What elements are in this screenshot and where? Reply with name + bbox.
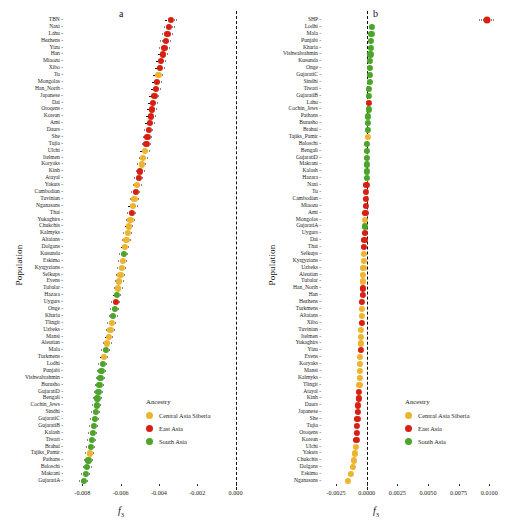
y-tick-label: Kalmyks ‐: [40, 231, 63, 237]
data-point: [89, 437, 95, 443]
data-point: [94, 395, 100, 401]
legend-color-swatch: [405, 438, 412, 445]
data-point: [143, 141, 149, 147]
y-tick-label: Tuvinian ‐: [298, 327, 321, 333]
y-tick-label: Tiwari ‐: [45, 437, 63, 443]
data-point: [142, 148, 148, 154]
y-tick-label: Hezhens ‐: [299, 299, 321, 305]
panel-a-plot-area: TBN ‐Naxi ‐Lahu ‐Hezhens ‐Yizu ‐Han ‐Mia…: [0, 0, 254, 531]
data-point: [364, 175, 370, 181]
data-point: [367, 51, 373, 57]
y-tick-label: Tuvinian ‐: [40, 196, 63, 202]
y-tick-label: Kusunda ‐: [40, 251, 63, 257]
y-tick-label: Turkmens ‐: [296, 306, 321, 312]
y-tick-label: Koryaks ‐: [41, 162, 63, 168]
y-tick-label: Eskimo ‐: [301, 471, 321, 477]
data-point: [96, 382, 102, 388]
data-point: [140, 155, 146, 161]
data-point: [102, 347, 108, 353]
legend-label: East Asia: [159, 425, 183, 432]
y-tick-label: Onge ‐: [48, 306, 63, 312]
data-point: [114, 292, 120, 298]
legend-label: East Asia: [418, 425, 442, 432]
y-tick-label: Mala ‐: [307, 31, 321, 37]
y-tick-label: GujaratiC ‐: [38, 416, 63, 422]
x-tick-mark: [489, 484, 490, 486]
data-point: [126, 223, 132, 229]
y-tick-label: Daurs ‐: [305, 403, 321, 409]
y-tick-label: Pathans ‐: [301, 114, 321, 120]
y-tick-label: Yakuts ‐: [303, 451, 321, 457]
y-tick-label: Aleutian ‐: [41, 341, 63, 347]
y-tick-label: She ‐: [310, 416, 321, 422]
y-tick-label: Kinh ‐: [49, 169, 63, 175]
y-tick-label: Mansi ‐: [46, 334, 63, 340]
data-point: [95, 388, 101, 394]
data-point: [155, 72, 161, 78]
y-tick-label: Han ‐: [51, 52, 63, 58]
data-point: [358, 327, 364, 333]
y-tick-label: Tu ‐: [54, 72, 63, 78]
figure-root: a Population TBN ‐Naxi ‐Lahu ‐Hezhens ‐Y…: [0, 0, 507, 531]
data-point: [93, 402, 99, 408]
data-point: [359, 313, 365, 319]
y-tick-label: Lahu ‐: [307, 100, 321, 106]
data-point: [367, 65, 373, 71]
panel-b-x-axis-label: f3: [373, 505, 379, 518]
data-point: [131, 196, 137, 202]
data-point: [364, 155, 370, 161]
data-point: [82, 471, 88, 477]
y-tick-label: Yukaghirs ‐: [38, 217, 63, 223]
data-point: [357, 361, 363, 367]
data-point: [359, 299, 365, 305]
y-tick-label: Ulchi ‐: [48, 148, 63, 154]
x-tick-label: -0.008: [74, 489, 90, 496]
y-tick-label: Altaians ‐: [42, 237, 63, 243]
data-point: [115, 285, 121, 291]
data-point: [154, 79, 160, 85]
legend-color-swatch: [405, 425, 412, 432]
y-tick-label: Ami ‐: [308, 210, 321, 216]
legend-item[interactable]: East Asia: [405, 422, 469, 435]
y-tick-label: Uzbeks ‐: [301, 265, 321, 271]
y-tick-label: Nganasans ‐: [294, 478, 321, 484]
y-tick-label: Naxi ‐: [49, 24, 63, 30]
panel-a: a Population TBN ‐Naxi ‐Lahu ‐Hezhens ‐Y…: [0, 0, 254, 531]
data-point: [364, 141, 370, 147]
y-tick-label: Kusunda ‐: [298, 58, 321, 64]
y-tick-label: Sindhi ‐: [46, 409, 63, 415]
data-point: [358, 320, 364, 326]
data-point: [136, 175, 142, 181]
data-point: [97, 375, 103, 381]
y-tick-label: Uzbeks ‐: [43, 327, 63, 333]
y-tick-label: Korean ‐: [302, 437, 321, 443]
legend-item[interactable]: East Asia: [146, 422, 210, 435]
data-point: [366, 93, 372, 99]
data-point: [360, 278, 366, 284]
data-point: [369, 24, 375, 30]
data-point: [360, 271, 366, 277]
legend-item[interactable]: Central Asia Siberia: [405, 409, 469, 422]
legend-item[interactable]: South Asia: [405, 435, 469, 448]
data-point: [345, 478, 351, 484]
data-point: [107, 327, 113, 333]
y-tick-label: Oroqens ‐: [299, 430, 321, 436]
y-tick-label: Hazara ‐: [302, 175, 321, 181]
legend-item[interactable]: South Asia: [146, 435, 210, 448]
legend-color-swatch: [146, 438, 153, 445]
y-tick-label: Tu ‐: [312, 189, 321, 195]
data-point: [88, 444, 94, 450]
y-tick-label: Tubalar ‐: [43, 286, 63, 292]
y-tick-label: Yakuts ‐: [45, 182, 63, 188]
legend-item[interactable]: Central Asia Siberia: [146, 409, 210, 422]
y-tick-label: Cochin_Jews ‐: [289, 107, 321, 113]
y-tick-label: Kharia ‐: [45, 313, 63, 319]
y-tick-label: Dolgans ‐: [42, 244, 63, 250]
data-point: [98, 368, 104, 374]
legend-label: Central Asia Siberia: [418, 412, 469, 419]
y-tick-label: Kalash ‐: [45, 430, 63, 436]
data-point: [111, 306, 117, 312]
y-tick-label: Vishwabrahmin ‐: [25, 375, 63, 381]
data-point: [147, 120, 153, 126]
y-tick-label: Yukaghirs ‐: [296, 341, 321, 347]
